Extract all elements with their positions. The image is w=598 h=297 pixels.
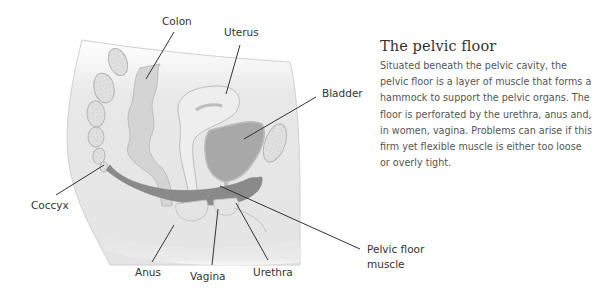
panel-title: The pelvic floor [380, 38, 592, 54]
label-bladder: Bladder [322, 87, 363, 100]
label-uterus: Uterus [224, 26, 259, 39]
panel-body: Situated beneath the pelvic cavity, the … [380, 58, 592, 171]
label-urethra: Urethra [253, 266, 293, 279]
label-colon: Colon [162, 15, 192, 28]
label-pelvic-floor-line2: muscle [367, 258, 424, 271]
info-panel: The pelvic floor Situated beneath the pe… [380, 38, 592, 171]
label-vagina: Vagina [190, 270, 225, 283]
label-coccyx: Coccyx [31, 199, 69, 212]
label-pelvic-floor-muscle: Pelvic floor muscle [367, 243, 424, 271]
label-anus: Anus [135, 266, 161, 279]
label-pelvic-floor-line1: Pelvic floor [367, 243, 424, 256]
